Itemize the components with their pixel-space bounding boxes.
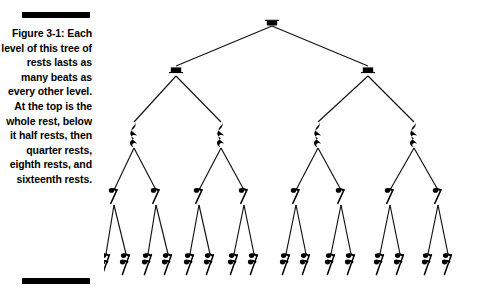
- bottom-rule-bar: [22, 278, 90, 284]
- tree-level-sixteenth-rests: [104, 253, 452, 274]
- sixteenth-rest-icon: [228, 253, 238, 274]
- eighth-rest-icon: [336, 188, 345, 203]
- half-rest-icon: [169, 67, 183, 73]
- quarter-rest-icon: [217, 122, 224, 148]
- eighth-rest-icon: [151, 188, 160, 203]
- tree-level-quarter-rests: [130, 122, 417, 148]
- sixteenth-rest-icon: [162, 253, 172, 274]
- sixteenth-rest-icon: [394, 253, 404, 274]
- eighth-rest-icon: [291, 188, 300, 203]
- sixteenth-rest-icon: [280, 253, 290, 274]
- caption-column: Figure 3-1: Each level of this tree of r…: [0, 0, 104, 296]
- tree-level-whole-rests: [265, 20, 279, 26]
- half-rest-icon: [361, 67, 375, 73]
- quarter-rest-icon: [130, 122, 137, 148]
- eighth-rest-icon: [433, 188, 442, 203]
- rest-tree-diagram: [104, 0, 479, 296]
- figure-page: Figure 3-1: Each level of this tree of r…: [0, 0, 479, 296]
- quarter-rest-icon: [410, 122, 417, 148]
- rest-tree-svg: [104, 0, 479, 296]
- sixteenth-rest-icon: [184, 253, 194, 274]
- figure-caption-body: Each level of this tree of rests lasts a…: [1, 27, 92, 185]
- sixteenth-rest-icon: [442, 253, 452, 274]
- eighth-rest-icon: [194, 188, 203, 203]
- sixteenth-rest-icon: [345, 253, 355, 274]
- sixteenth-rest-icon: [120, 253, 130, 274]
- sixteenth-rest-icon: [374, 253, 384, 274]
- sixteenth-rest-icon: [325, 253, 335, 274]
- sixteenth-rest-icon: [422, 253, 432, 274]
- sixteenth-rest-icon: [300, 253, 310, 274]
- eighth-rest-icon: [239, 188, 248, 203]
- figure-caption: Figure 3-1: Each level of this tree of r…: [0, 26, 104, 187]
- sixteenth-rest-icon: [248, 253, 258, 274]
- tree-edges: [106, 26, 448, 254]
- top-rule-bar: [22, 12, 90, 18]
- tree-level-eighth-rests: [109, 188, 442, 203]
- whole-rest-icon: [265, 20, 279, 26]
- figure-caption-title: Figure 3-1:: [12, 27, 65, 39]
- sixteenth-rest-icon: [142, 253, 152, 274]
- quarter-rest-icon: [314, 122, 321, 148]
- eighth-rest-icon: [109, 188, 118, 203]
- eighth-rest-icon: [385, 188, 394, 203]
- sixteenth-rest-icon: [204, 253, 214, 274]
- sixteenth-rest-icon: [104, 253, 110, 274]
- tree-level-half-rests: [169, 67, 375, 73]
